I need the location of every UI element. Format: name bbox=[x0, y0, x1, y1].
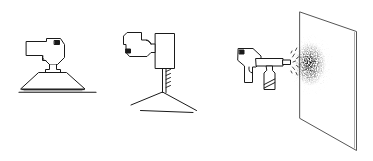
figure-1-rear-vent-block bbox=[55, 41, 60, 45]
figure-3-spray-barrel bbox=[256, 59, 283, 67]
figure-2-motor-housing-rectangle bbox=[156, 34, 175, 69]
figure-3-nozzle-tip bbox=[283, 60, 291, 65]
illustration-svg bbox=[0, 0, 373, 161]
figure-3-spray-speckle-center bbox=[301, 53, 317, 73]
figure-3-rear-vent-block bbox=[240, 50, 245, 54]
figure-3-spray-speckle-pattern bbox=[287, 33, 335, 97]
illustration-canvas bbox=[0, 0, 373, 161]
figure-2-rear-vent-block bbox=[126, 49, 131, 53]
